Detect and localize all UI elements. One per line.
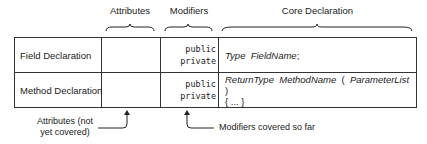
brace-modifiers <box>165 24 212 31</box>
modifier-private: private <box>180 90 216 102</box>
modifiers-cell-field: public private <box>161 38 216 72</box>
annotation-attributes-line1: Attributes (not <box>32 116 98 127</box>
modifier-public: public <box>185 78 216 90</box>
brace-core <box>222 24 412 31</box>
arrow-attributes <box>98 114 127 128</box>
modifier-public: public <box>185 43 216 55</box>
row-label-method: Method Declaration <box>20 73 102 107</box>
core-body: { ... } <box>225 96 245 107</box>
core-open-paren: ( <box>342 74 345 85</box>
core-parameterlist: ParameterList <box>350 74 409 85</box>
core-fieldname: FieldName <box>251 50 297 61</box>
core-type: Type <box>225 50 245 61</box>
annotation-attributes: Attributes (not yet covered) <box>32 116 98 138</box>
core-close-paren: ) <box>225 85 228 96</box>
modifiers-cell-method: public private <box>161 73 216 107</box>
core-methodname: MethodName <box>279 74 336 85</box>
annotation-attributes-line2: yet covered) <box>32 127 98 138</box>
core-cell-field: Type FieldName; <box>225 38 299 72</box>
arrow-modifiers <box>187 114 214 128</box>
core-returntype: ReturnType <box>225 74 274 85</box>
core-semicolon: ; <box>297 50 300 61</box>
declaration-table: Field Declaration public private Type Fi… <box>14 37 417 108</box>
annotation-modifiers: Modifiers covered so far <box>219 122 315 132</box>
row-label-field: Field Declaration <box>20 38 91 72</box>
brace-attributes <box>106 24 154 31</box>
modifier-private: private <box>180 55 216 67</box>
core-cell-method: ReturnType MethodName ( ParameterList ) … <box>225 73 416 107</box>
